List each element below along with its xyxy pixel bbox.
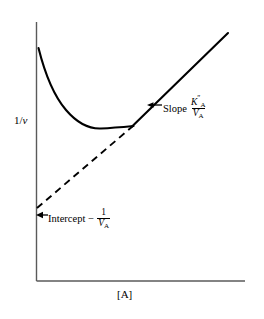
slope-denominator-subscript: A: [199, 112, 204, 120]
intercept-denominator: VA: [97, 218, 110, 229]
slope-denominator-symbol: V: [193, 108, 199, 118]
slope-denominator: VA: [192, 108, 205, 119]
plot-area: [0, 0, 264, 319]
y-axis-label: 1/v: [14, 114, 27, 126]
x-axis-label: [A]: [117, 288, 132, 300]
slope-label: Slope: [163, 103, 187, 114]
slope-fraction: K″A VA: [190, 98, 207, 119]
intercept-label: Intercept: [48, 213, 85, 224]
figure-container: 1/v [A] Slope K″A VA Intercept − 1 VA: [0, 0, 264, 319]
intercept-sign: −: [88, 213, 94, 224]
intercept-denominator-subscript: A: [104, 222, 109, 230]
slope-numerator-subscript: A: [200, 101, 205, 109]
asymptote-dashed-extrapolation: [37, 126, 133, 208]
slope-numerator: K″A: [190, 98, 207, 108]
intercept-arrow-icon: [36, 212, 48, 218]
y-axis-label-variable: v: [23, 114, 28, 126]
reciprocal-rate-curve: [39, 48, 134, 129]
slope-annotation: Slope K″A VA: [163, 98, 206, 119]
intercept-numerator: 1: [100, 208, 107, 218]
y-axis-label-numerator: 1/: [14, 114, 23, 126]
intercept-annotation: Intercept − 1 VA: [48, 208, 110, 229]
intercept-fraction: 1 VA: [97, 208, 110, 229]
slope-arrow-icon: [147, 102, 162, 108]
